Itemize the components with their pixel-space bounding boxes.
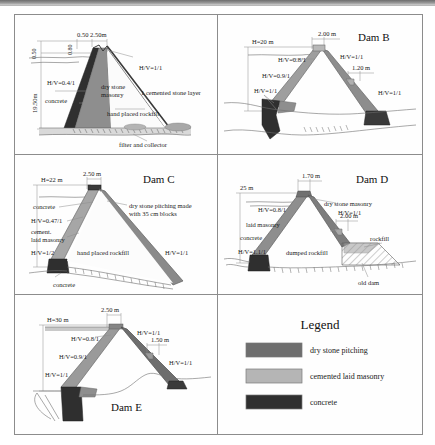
dam-c-fill-label: hand placed rockfill <box>77 249 129 256</box>
dam-e-slope-lower-us: H/V=1/1 <box>45 371 68 378</box>
panel-dam-b: Dam B H=20 m 2.00 m 1.20 m <box>218 15 422 154</box>
dam-c-slope-ds: H/V=1/1 <box>165 249 188 256</box>
legend-label-concrete: concrete <box>310 398 338 407</box>
dam-b-slope-upper-ds: H/V=1/1 <box>340 53 363 60</box>
panel-dam-c: Dam C H=22 m 2.50 m <box>15 155 217 294</box>
dam-b-slope-upper-us: H/V=0.8/1 <box>278 56 306 63</box>
panel-dam-d: Dam D 25 m 1.70 m 2.00 m <box>218 155 422 294</box>
dam-e-reservoir <box>45 327 115 331</box>
legend-swatch-cemented-laid-masonry <box>246 369 302 383</box>
legend-label-cemented-laid-masonry: cemented laid masonry <box>310 372 384 381</box>
dam-d-slope-lower-us: H/V=1.1/1 <box>238 248 266 255</box>
dam-b-slope-lower-ds: H/V=1/1 <box>378 89 401 96</box>
dam-b-title: Dam B <box>358 31 389 43</box>
dam-b-height-label: H=20 m <box>252 38 274 45</box>
dam-d-slope-ds: H/V=1/1 <box>338 209 361 216</box>
dam-e-slope-mid-us: H/V=0.9/1 <box>59 353 87 360</box>
dam-c-slope-lower-us: H/V=1/2 <box>31 249 54 256</box>
dam-a-fill-label: hand placed rockfill <box>107 110 159 117</box>
figure-plate: 19.50m 0.50 0.50 2.50m 0.80 <box>14 14 423 435</box>
dam-c-slope-us: H/V=0.47/1 <box>31 217 62 224</box>
dam-a-downstream-slope: H/V=1/1 <box>139 64 162 71</box>
dam-d-old-dam-label: old dam <box>358 279 379 286</box>
dam-c-material-masonry: cement.laid masonry <box>31 228 66 243</box>
dam-e-toe-block <box>167 381 187 389</box>
panel-dam-a: 19.50m 0.50 0.50 2.50m 0.80 <box>15 15 217 154</box>
dam-d-base-concrete <box>248 255 270 271</box>
dam-a-material-dry-stone: dry stonemasonry <box>101 83 125 98</box>
panel-legend: Legend dry stone pitching cemented laid … <box>218 295 422 434</box>
dam-e-step-dim: 1.50 m <box>151 336 169 343</box>
legend-swatch-dry-stone-pitching <box>246 343 302 357</box>
dam-d-rockfill-label: rockfill <box>370 235 389 242</box>
dam-c-title: Dam C <box>143 173 174 185</box>
dam-d-height-label: 25 m <box>240 184 253 191</box>
dam-a-crest-dims: 0.50 2.50m <box>77 31 106 38</box>
dam-a-drain-label: filter and collector <box>119 141 168 148</box>
dam-e-crest-width: 2.50 m <box>101 306 119 313</box>
dam-b-step-dim: 1.20 m <box>352 64 370 71</box>
dam-d-title: Dam D <box>356 173 388 185</box>
dam-b-slope-mid-us: H/V=0.9/1 <box>262 72 290 79</box>
dam-e-slope-lower-ds: H/V=1/1 <box>169 359 192 366</box>
dam-c-concrete-top: concrete <box>33 203 55 210</box>
dam-e-base-concrete <box>61 387 83 421</box>
panel-dam-e: Dam E H=30 m 2.50 m 1.50 m <box>15 295 217 434</box>
dam-e-title: Dam E <box>111 401 142 413</box>
dam-d-pitching-label: dry stone masonry <box>324 200 373 207</box>
legend-label-dry-stone-pitching: dry stone pitching <box>310 346 368 355</box>
legend-title: Legend <box>301 317 340 332</box>
dam-e-slope-upper-ds: H/V=1/1 <box>137 329 160 336</box>
dam-d-slope-us: H/V=0.8/1 <box>258 206 286 213</box>
dam-c-base-concrete-label: concrete <box>53 281 75 288</box>
dam-d-material-masonry: laid masonry <box>246 221 281 228</box>
dam-b-crest-width: 2.00 m <box>318 30 336 37</box>
dam-a-left-scale: 0.50 <box>31 49 37 60</box>
dam-a-cemented-layer: 1 cemented stone layer <box>141 89 202 96</box>
dam-b-left-abutment <box>262 99 280 139</box>
dam-a-material-concrete: concrete <box>45 97 67 104</box>
dam-a-crest-height: 0.80 <box>67 45 73 56</box>
dam-a-height-label: 19.50m <box>31 93 38 113</box>
dam-c-pitching-label: dry stone pitching madewith 35 cm blocks <box>129 202 192 217</box>
dam-b-slope-lower-us: H/V=1/1 <box>254 87 277 94</box>
dam-c-height-label: H=22 m <box>41 176 63 183</box>
dam-d-material-concrete: concrete <box>240 234 262 241</box>
dam-a-upstream-slope: H/V=0.4/1 <box>47 79 75 86</box>
dam-d-fill-label: dumped rockfill <box>286 249 328 256</box>
legend-swatch-concrete <box>246 395 302 409</box>
dam-e-height-label: H=30 m <box>47 316 69 323</box>
dam-e-slope-upper-us: H/V=0.8/1 <box>71 335 99 342</box>
scan-header-rule <box>0 5 435 6</box>
dam-c-crest-width: 2.50 m <box>83 170 101 177</box>
dam-d-crest-width: 1.70 m <box>302 172 320 179</box>
